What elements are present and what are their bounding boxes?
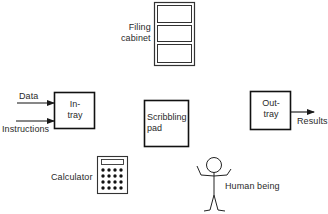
calculator-label: Calculator: [51, 172, 93, 182]
scribbling-pad-label-line1: Scribbling: [147, 112, 191, 123]
instructions-input-label: Instructions: [2, 124, 49, 134]
in-tray-label-line1: In-: [55, 99, 95, 110]
scribbling-pad-label: Scribbling pad: [147, 112, 191, 134]
filing-cabinet-icon: [155, 3, 195, 66]
in-tray-label: In- tray: [55, 99, 95, 121]
filing-cabinet-label: Filing cabinet: [121, 22, 151, 44]
results-output-label: Results: [297, 116, 328, 126]
out-tray-label-line1: Out-: [251, 98, 291, 109]
out-tray-label: Out- tray: [251, 98, 291, 120]
in-tray-label-line2: tray: [55, 110, 95, 121]
filing-cabinet-label-line1: Filing: [121, 22, 151, 33]
data-input-label: Data: [19, 91, 38, 101]
scribbling-pad-label-line2: pad: [147, 123, 191, 134]
filing-cabinet-label-line2: cabinet: [121, 33, 151, 44]
calculator-icon: [98, 157, 128, 194]
human-being-label: Human being: [225, 181, 280, 191]
out-tray-label-line2: tray: [251, 109, 291, 120]
